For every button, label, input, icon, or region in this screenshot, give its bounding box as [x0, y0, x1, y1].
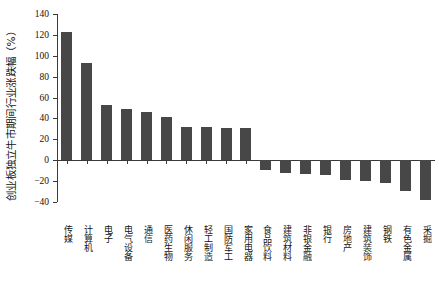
y-tick-label-host: 60: [52, 98, 53, 99]
y-tick-label-host: 140: [52, 14, 53, 15]
x-tick-label: 房地产: [340, 225, 352, 252]
bar: [320, 160, 331, 175]
y-tick-label-host: 120: [52, 35, 53, 36]
y-axis-line: [57, 14, 58, 202]
bar: [400, 160, 411, 191]
x-tick-label: 通信: [141, 225, 153, 243]
y-tick-mark: [53, 118, 57, 119]
y-tick-label: −40: [34, 197, 49, 207]
y-tick-label: 0: [44, 155, 49, 165]
x-tick-label: 传媒: [61, 225, 73, 243]
x-tick-label: 建筑装饰: [359, 225, 371, 261]
x-tick-mark: [127, 160, 128, 164]
x-tick-label: 非银金融: [300, 225, 312, 261]
x-tick-mark: [226, 160, 227, 164]
bar: [221, 128, 232, 160]
y-tick-label: 80: [40, 72, 50, 82]
x-tick-mark: [67, 160, 68, 164]
x-tick-mark: [87, 160, 88, 164]
y-tick-label: 120: [35, 30, 49, 40]
y-tick-mark: [53, 56, 57, 57]
x-tick-label: 计算机: [81, 225, 93, 252]
y-tick-mark: [53, 77, 57, 78]
y-tick-label: 40: [40, 113, 50, 123]
y-tick-label: 140: [35, 9, 49, 19]
x-tick-label: 钢铁: [379, 225, 391, 243]
y-tick-mark: [53, 98, 57, 99]
y-tick-label: 100: [35, 51, 49, 61]
bar: [101, 105, 112, 160]
bar: [181, 127, 192, 160]
x-tick-label: 医药生物: [160, 225, 172, 261]
bar: [300, 160, 311, 174]
y-tick-label-host: −40: [52, 202, 53, 203]
y-axis-title-container: 创业板独立牛市期间行业涨跌幅（%）: [0, 0, 22, 226]
y-axis-title: 创业板独立牛市期间行业涨跌幅（%）: [4, 25, 19, 200]
x-tick-label: 银行: [320, 225, 332, 243]
x-tick-mark: [186, 160, 187, 164]
bar: [121, 109, 132, 160]
y-tick-label: −20: [34, 176, 49, 186]
bar: [260, 160, 271, 169]
y-tick-label: 20: [40, 134, 50, 144]
bar: [161, 117, 172, 160]
x-axis-labels: 传媒计算机电子电气设备通信医药生物休闲服务轻工制造国防军工家用电器食品饮料建筑材…: [57, 225, 435, 287]
bar: [380, 160, 391, 183]
x-tick-label: 休闲服务: [180, 225, 192, 261]
y-tick-label-host: 100: [52, 56, 53, 57]
x-tick-label: 食品饮料: [260, 225, 272, 261]
bar: [240, 128, 251, 160]
chart-figure: 创业板独立牛市期间行业涨跌幅（%） −40−200204060801001201…: [0, 0, 439, 290]
x-tick-label: 国防军工: [220, 225, 232, 261]
y-tick-label-host: 40: [52, 118, 53, 119]
y-tick-mark: [53, 35, 57, 36]
x-tick-label: 有色金属: [399, 225, 411, 261]
y-tick-mark: [53, 160, 57, 161]
x-tick-mark: [246, 160, 247, 164]
x-tick-mark: [166, 160, 167, 164]
y-tick-mark: [53, 181, 57, 182]
bar: [360, 160, 371, 181]
bar: [420, 160, 431, 200]
y-tick-label-host: 20: [52, 139, 53, 140]
x-tick-mark: [107, 160, 108, 164]
plot-area: −40−20020406080100120140: [57, 14, 435, 202]
x-tick-mark: [206, 160, 207, 164]
bar: [141, 112, 152, 160]
x-tick-label: 家用电器: [240, 225, 252, 261]
x-tick-mark: [147, 160, 148, 164]
x-tick-label: 电子: [101, 225, 113, 243]
bar: [340, 160, 351, 180]
bar: [201, 127, 212, 160]
bar: [280, 160, 291, 173]
x-tick-label: 采掘: [419, 225, 431, 243]
bar: [81, 63, 92, 160]
y-tick-mark: [53, 14, 57, 15]
x-tick-label: 轻工制造: [200, 225, 212, 261]
y-tick-label-host: 80: [52, 77, 53, 78]
y-tick-label: 60: [40, 93, 50, 103]
y-tick-label-host: 0: [52, 160, 53, 161]
y-tick-mark: [53, 202, 57, 203]
y-tick-mark: [53, 139, 57, 140]
x-tick-label: 建筑材料: [280, 225, 292, 261]
y-tick-label-host: −20: [52, 181, 53, 182]
bar: [61, 32, 72, 161]
x-tick-label: 电气设备: [121, 225, 133, 261]
